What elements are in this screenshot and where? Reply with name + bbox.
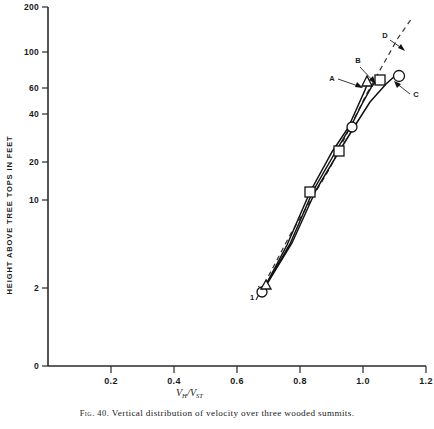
y-tick-label-100: 100 bbox=[24, 47, 39, 57]
data-point-circle-C bbox=[394, 71, 405, 82]
axes-group bbox=[48, 7, 426, 366]
x-axis-title-numerator: VH bbox=[176, 387, 187, 398]
data-point-square-B bbox=[375, 75, 385, 85]
figure-caption-text: Vertical distribution of velocity over t… bbox=[112, 408, 354, 418]
figure-container: 200 100 60 40 20 10 2 0 0.2 0.4 0.6 0.8 … bbox=[0, 0, 434, 429]
y-tick-label-200: 200 bbox=[24, 2, 39, 12]
y-tick-labels-group: 200 100 60 40 20 10 2 0 bbox=[24, 2, 39, 371]
data-point-triangle-A-low bbox=[261, 280, 271, 289]
x-tick-label-0.4: 0.4 bbox=[167, 376, 180, 386]
series-label-B: B bbox=[355, 56, 361, 65]
y-tick-label-2: 2 bbox=[34, 283, 39, 293]
figure-caption: Fig. 40. Vertical distribution of veloci… bbox=[0, 408, 434, 418]
series-label-1: 1 bbox=[250, 293, 254, 302]
data-point-square-mid-low bbox=[305, 187, 315, 197]
chart-plot-area: 200 100 60 40 20 10 2 0 0.2 0.4 0.6 0.8 … bbox=[0, 0, 434, 429]
data-point-circle-mid bbox=[347, 122, 357, 132]
figure-number: Fig. 40. bbox=[80, 409, 110, 418]
x-axis-title: VH/VST bbox=[176, 386, 203, 399]
y-tick-label-60: 60 bbox=[29, 83, 39, 93]
y-tick-label-0: 0 bbox=[34, 361, 39, 371]
y-axis-title: HEIGHT ABOVE TREE TOPS IN FEET bbox=[5, 135, 14, 294]
y-tick-label-40: 40 bbox=[29, 109, 39, 119]
series-line-C bbox=[262, 75, 396, 292]
x-tick-label-1.0: 1.0 bbox=[356, 376, 369, 386]
y-tick-label-10: 10 bbox=[29, 195, 39, 205]
data-point-square-mid-high bbox=[334, 146, 344, 156]
x-tick-label-0.2: 0.2 bbox=[104, 376, 117, 386]
y-ticks-group bbox=[42, 7, 48, 366]
y-tick-label-20: 20 bbox=[29, 157, 39, 167]
series-label-D: D bbox=[382, 31, 388, 40]
x-ticks-group bbox=[111, 366, 426, 373]
x-tick-label-0.8: 0.8 bbox=[293, 376, 306, 386]
series-label-C: C bbox=[413, 90, 419, 99]
x-tick-label-0.6: 0.6 bbox=[230, 376, 243, 386]
series-label-A: A bbox=[329, 74, 335, 83]
leader-arrow-D bbox=[398, 44, 405, 51]
x-axis-title-denominator: VST bbox=[190, 387, 203, 398]
data-point-triangle-A bbox=[362, 76, 372, 86]
annotations-group: A B C D 1 bbox=[250, 31, 419, 302]
x-tick-labels-group: 0.2 0.4 0.6 0.8 1.0 1.2 bbox=[104, 376, 432, 386]
x-tick-label-1.2: 1.2 bbox=[419, 376, 432, 386]
